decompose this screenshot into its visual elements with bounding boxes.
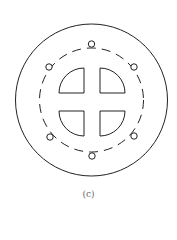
bolt-hole [88, 41, 94, 47]
quadrant-window-top-right [100, 68, 125, 93]
quadrant-window-bottom-right [100, 111, 125, 136]
quadrant-window-bottom-left [59, 111, 84, 136]
bolt-hole [89, 153, 95, 159]
bolt-hole [131, 64, 137, 70]
quadrant-window-top-left [59, 68, 84, 93]
quadrant-windows [59, 68, 125, 136]
bolt-hole [131, 133, 137, 139]
bolt-hole [47, 134, 53, 140]
bolt-circle-dashed [40, 48, 144, 152]
figure-caption: (c) [0, 189, 177, 199]
bolt-hole [46, 64, 52, 70]
